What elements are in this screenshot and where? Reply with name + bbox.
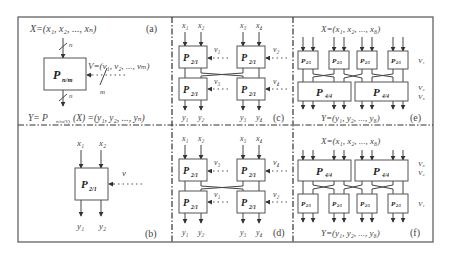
key-bus-width: m (100, 88, 105, 96)
block-label: P (316, 86, 323, 98)
panel-e-input: X=(x₁, x₂, ..., x₈) (320, 24, 380, 34)
block-sub: 2/1 (190, 59, 198, 65)
panel-a: X=(x₁, x₂, ..., xₙ) (a) n P n/m m V=(v₁,… (28, 23, 157, 124)
key-v3: v₃ (214, 158, 221, 167)
block-sub: 2/1 (395, 203, 401, 208)
panel-d: x₁ x₂ x₃ x₄ P 2/1 P 2/1 v₃ v₄ P 2/1 P 2/… (179, 134, 287, 239)
permutation-network-diagram: X=(x₁, x₂, ..., xₙ) (a) n P n/m m V=(v₁,… (0, 0, 453, 255)
panel-f: X=(x₁, x₂, ..., x₈) P 4/4 P 4/4 V₃ V₂ P … (298, 136, 425, 239)
panel-f-output: Y=(y₁, y₂, ..., y₈) (321, 228, 380, 238)
block-sub: 2/1 (305, 203, 311, 208)
key-v4: v₄ (273, 77, 280, 86)
key-V3: V₃ (418, 93, 425, 101)
block-sub: 4/4 (324, 172, 332, 178)
input-x2: x₂ (98, 138, 106, 148)
block-pnm (44, 58, 86, 90)
block-label: P (241, 197, 248, 208)
block-sub: 2/1 (190, 172, 198, 178)
key-V1: V₁ (418, 57, 425, 65)
panel-a-label: (a) (146, 23, 157, 35)
panel-b-label: (b) (145, 228, 157, 240)
key-v1: v₁ (214, 45, 221, 54)
block-label: P (373, 86, 380, 98)
panel-e-label: (e) (410, 112, 421, 124)
output-y1: y₁ (181, 113, 189, 122)
block-label: P (183, 165, 190, 176)
block-sub: 2/1 (190, 204, 198, 210)
panel-e: X=(x₁, x₂, ..., x₈) P 2/1 P 2/1 P 2/1 P … (298, 24, 425, 124)
block-sub: 2/1 (248, 91, 256, 97)
block-sub: 2/1 (336, 203, 342, 208)
block-sub: 2/1 (336, 60, 342, 65)
output-y1: y₁ (181, 228, 189, 237)
block-sub: n/m (62, 76, 72, 83)
block-sub: 2/1 (364, 60, 370, 65)
input-x3: x₃ (239, 21, 247, 30)
block-label: P (241, 52, 248, 63)
input-x2: x₂ (197, 21, 205, 30)
block-label: P (183, 52, 190, 63)
block-sub: 4/4 (324, 93, 332, 99)
output-sub: n/m(V) (56, 119, 70, 124)
output-y2: y₂ (98, 221, 106, 231)
block-label: P (241, 165, 248, 176)
output-y2: y₂ (197, 228, 205, 237)
output-y4: y₄ (255, 228, 263, 237)
block-sub: 4/4 (381, 172, 389, 178)
block-sub: 2/1 (248, 59, 256, 65)
block-sub: 2/1 (88, 186, 97, 192)
panel-f-input: X=(x₁, x₂, ..., x₈) (320, 136, 380, 146)
key-vector: V=(v₁, v₂, ..., vₘ) (88, 61, 150, 71)
input-x2: x₂ (197, 134, 205, 143)
key-v2: v₂ (273, 45, 280, 54)
input-x4: x₄ (255, 21, 263, 30)
block-sub: 4/4 (381, 93, 389, 99)
key-v4: v₄ (273, 158, 280, 167)
block-label: P (316, 165, 323, 177)
key-V3: V₃ (418, 160, 425, 168)
block-label: P (183, 197, 190, 208)
input-x4: x₄ (255, 134, 263, 143)
output-suffix: (X) =(y₁, y₂, ..., yₙ) (73, 113, 145, 124)
key-V1: V₁ (418, 200, 425, 208)
block-label: P (53, 68, 61, 82)
block-label: P (373, 165, 380, 177)
block-sub: 2/1 (248, 204, 256, 210)
output-y4: y₄ (255, 113, 263, 122)
input-x1: x₁ (181, 21, 189, 30)
panel-b: x₁ x₂ P 2/1 v y₁ y₂ (b) (75, 138, 157, 240)
panel-f-label: (f) (410, 227, 420, 239)
key-V2: V₂ (418, 169, 425, 177)
panel-a-input: X=(x₁, x₂, ..., xₙ) (29, 23, 97, 35)
input-x3: x₃ (239, 134, 247, 143)
output-y3: y₃ (239, 113, 247, 122)
input-x1: x₁ (76, 138, 84, 148)
block-sub: 2/1 (248, 172, 256, 178)
bus-width-in: n (69, 41, 73, 49)
block-sub: 2/1 (364, 203, 370, 208)
input-x1: x₁ (181, 134, 189, 143)
block-sub: 2/1 (190, 91, 198, 97)
panel-c-label: (c) (273, 112, 284, 124)
key-v: v (122, 168, 126, 178)
output-prefix: Y= P (28, 113, 48, 123)
block-sub: 2/1 (305, 60, 311, 65)
output-y2: y₂ (197, 113, 205, 122)
block-label: P (183, 84, 190, 95)
panel-c: x₁ x₂ x₃ x₄ P 2/1 P 2/1 v₁ v₂ P 2/1 P 2/… (179, 21, 287, 124)
block-label: P (81, 178, 88, 190)
block-p21 (75, 168, 108, 200)
panel-e-output: Y=(y₁, y₂, ..., y₈) (321, 113, 380, 123)
block-label: P (241, 84, 248, 95)
key-V2: V₂ (418, 84, 425, 92)
panel-d-label: (d) (273, 227, 285, 239)
output-y3: y₃ (239, 228, 247, 237)
output-y1: y₁ (76, 221, 84, 231)
bus-width-out: n (69, 92, 73, 100)
key-v1: v₁ (214, 190, 221, 199)
key-v2: v₂ (273, 190, 280, 199)
block-sub: 2/1 (395, 60, 401, 65)
key-v3: v₃ (214, 77, 221, 86)
